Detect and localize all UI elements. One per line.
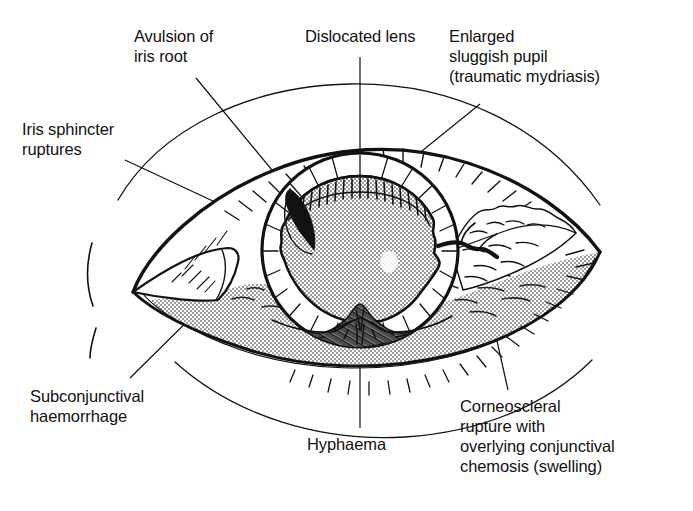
label-avulsion-of-iris-root: Avulsion of iris root xyxy=(134,26,213,66)
label-dislocated-lens: Dislocated lens xyxy=(305,26,415,46)
nose-line-upper xyxy=(88,243,93,306)
label-enlarged-sluggish-pupil: Enlarged sluggish pupil (traumatic mydri… xyxy=(449,26,600,86)
label-corneoscleral-rupture: Corneoscleral rupture with overlying con… xyxy=(460,396,615,476)
corneal-highlight xyxy=(380,251,398,273)
label-subconjunctival-haemorrhage: Subconjunctival haemorrhage xyxy=(30,386,144,426)
figure-canvas: Avulsion of iris root Dislocated lens En… xyxy=(0,0,693,511)
label-iris-sphincter-ruptures: Iris sphincter ruptures xyxy=(22,119,114,159)
nose-line-lower xyxy=(90,328,96,358)
label-hyphaema: Hyphaema xyxy=(307,434,386,454)
leader-avulsion xyxy=(196,78,281,181)
